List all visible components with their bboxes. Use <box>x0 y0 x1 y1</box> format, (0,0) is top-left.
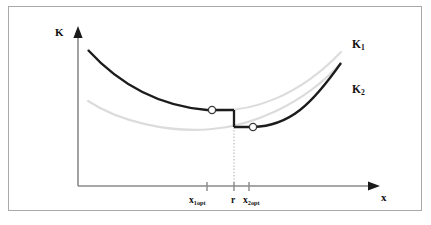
x-axis-arrow-icon <box>368 181 380 190</box>
curve-k2-inactive <box>88 63 341 130</box>
curve-label-k1-base: K <box>352 38 361 50</box>
y-axis-arrow-icon <box>73 26 82 38</box>
curve-label-k1: K1 <box>352 39 365 51</box>
curve-label-k2: K2 <box>352 84 365 96</box>
tick-label-x2opt-subscript: 2opt <box>248 199 260 206</box>
marker-point-x2opt <box>249 123 256 130</box>
curve-label-k1-subscript: 1 <box>361 43 365 52</box>
curve-k1-active <box>88 50 234 110</box>
tick-label-x2opt: x2opt <box>243 196 260 206</box>
plot-canvas <box>0 0 431 225</box>
tick-label-x1opt-subscript: 1opt <box>194 199 206 206</box>
tick-label-x1opt: x1opt <box>189 196 206 206</box>
figure-root: K x K1 K2 x1opt r x2opt <box>0 0 431 225</box>
tick-label-r-base: r <box>231 195 235 205</box>
marker-point-x1opt <box>208 106 215 113</box>
curve-label-k2-base: K <box>352 83 361 95</box>
curve-k2-active <box>234 63 341 127</box>
tick-label-r: r <box>231 196 235 206</box>
curve-k1-inactive <box>88 50 341 111</box>
x-axis-label: x <box>381 192 387 203</box>
y-axis-label: K <box>55 27 64 38</box>
curve-label-k2-subscript: 2 <box>361 88 365 97</box>
